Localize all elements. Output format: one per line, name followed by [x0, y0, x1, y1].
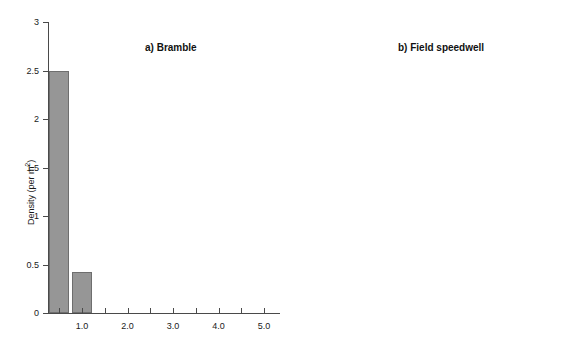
- chart-panel-bramble: Density (per m2) a) Bramble 00.511.522.5…: [0, 0, 293, 350]
- x-axis-tick: [196, 308, 197, 313]
- y-axis-tick-label: 0: [34, 309, 39, 318]
- x-axis-tick: [105, 308, 106, 313]
- x-axis-tick-label: 4.0: [212, 322, 225, 331]
- x-axis-tick: [173, 308, 174, 313]
- y-axis-tick: [43, 265, 48, 266]
- x-axis-tick: [241, 308, 242, 313]
- x-axis-tick-label: 1.0: [76, 322, 89, 331]
- bar: [72, 272, 92, 313]
- y-axis-tick-label: 2: [34, 115, 39, 124]
- x-axis-tick: [82, 308, 83, 313]
- y-axis-tick: [43, 119, 48, 120]
- y-axis-tick: [43, 216, 48, 217]
- y-axis-tick-label: 3: [34, 18, 39, 27]
- x-axis-tick: [59, 308, 60, 313]
- y-axis-tick-label: 1: [34, 212, 39, 221]
- x-axis-tick: [128, 308, 129, 313]
- y-axis-tick: [43, 71, 48, 72]
- panel-title-b: b) Field speedwell: [398, 42, 484, 53]
- y-axis-tick: [43, 22, 48, 23]
- figure-container: Density (per m2) a) Bramble 00.511.522.5…: [0, 0, 586, 350]
- plot-area-bramble: 00.511.522.531.02.03.04.05.0: [48, 22, 280, 313]
- y-axis-tick: [43, 168, 48, 169]
- x-axis-tick: [150, 308, 151, 313]
- x-axis-tick-label: 3.0: [167, 322, 180, 331]
- y-axis-tick: [43, 313, 48, 314]
- y-axis-tick-label: 1.5: [26, 163, 39, 172]
- x-axis-tick-label: 5.0: [258, 322, 271, 331]
- x-axis-tick: [219, 308, 220, 313]
- chart-panel-field-speedwell: b) Field speedwell 051015202530351.02.03…: [293, 0, 586, 350]
- x-axis-tick-label: 2.0: [121, 322, 134, 331]
- y-axis-line: [48, 22, 49, 313]
- x-axis-line: [48, 313, 280, 314]
- y-axis-tick-label: 0.5: [26, 260, 39, 269]
- bar: [49, 71, 69, 314]
- x-axis-tick: [264, 308, 265, 313]
- y-axis-tick-label: 2.5: [26, 66, 39, 75]
